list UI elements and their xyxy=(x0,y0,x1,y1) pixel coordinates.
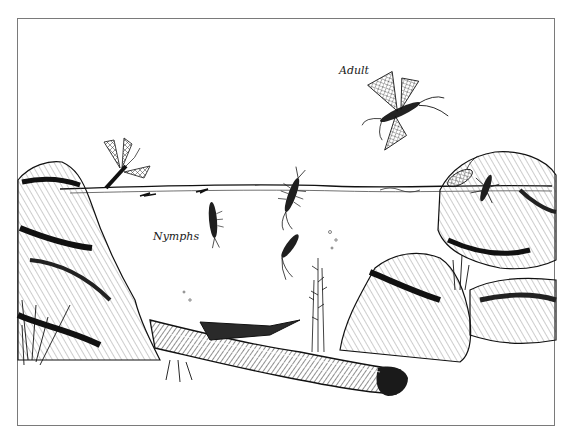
nymph-icon xyxy=(268,165,312,233)
aquatic-plant xyxy=(309,258,327,352)
mayfly-illustration xyxy=(0,0,577,444)
emerging-mayfly-icon xyxy=(104,138,150,188)
nymph-icon xyxy=(207,201,225,248)
label-adult: Adult xyxy=(339,64,369,77)
label-nymphs: Nymphs xyxy=(153,230,199,243)
nymph-icon xyxy=(270,232,315,282)
